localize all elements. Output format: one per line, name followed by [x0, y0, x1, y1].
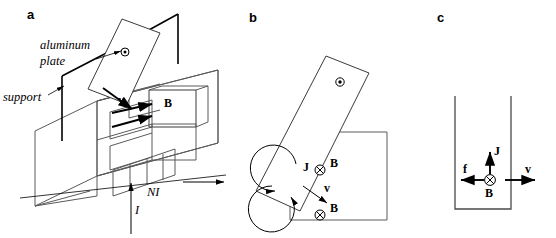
current-density-label-b: J — [303, 160, 309, 174]
current-density-label-c: J — [494, 144, 500, 158]
panel-c-group: c B J f v — [437, 10, 535, 209]
field-label-lower-b: B — [330, 201, 338, 215]
field-label-c: B — [485, 186, 493, 200]
velocity-label-b: v — [324, 181, 330, 195]
support-label: support — [3, 90, 42, 104]
panel-a-group: a — [3, 7, 226, 234]
field-label-a: B — [164, 96, 172, 110]
coil-current-label: NI — [146, 185, 160, 199]
force-label-c: f — [463, 162, 468, 176]
field-symbol-c — [485, 175, 496, 186]
field-symbol-upper-b — [315, 165, 325, 175]
panel-b-group: b J v B — [248, 10, 387, 232]
figure-container: a — [0, 0, 556, 238]
aluminum-plate-label-line1: aluminum — [40, 38, 90, 52]
plate-axis-dot-icon — [124, 51, 127, 54]
field-label-upper-b: B — [330, 156, 338, 170]
velocity-label-a: v — [118, 93, 124, 107]
panel-b-label: b — [249, 10, 257, 25]
plate-axis-symbol-b — [336, 78, 344, 86]
panel-c-label: c — [437, 10, 444, 25]
dot-in-circle-center — [338, 80, 341, 83]
panel-a-label: a — [27, 7, 35, 22]
channel-outline-c — [455, 96, 511, 209]
figure-canvas: a — [0, 0, 556, 238]
velocity-label-c: v — [525, 162, 531, 176]
aluminum-plate-label-line2: plate — [39, 54, 65, 68]
aluminum-plate-b — [256, 56, 369, 211]
field-symbol-lower-b — [315, 210, 325, 220]
current-label: I — [134, 203, 140, 217]
